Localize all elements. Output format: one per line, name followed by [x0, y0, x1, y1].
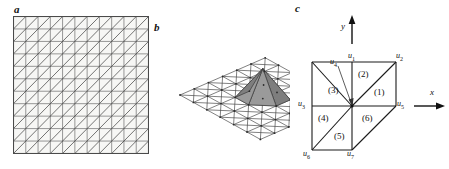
triangulated-square-grid — [13, 16, 149, 154]
perspective-mesh-with-pyramid — [150, 0, 290, 169]
triangle-label-1: (1) — [374, 88, 385, 97]
triangle-label-4: (4) — [318, 114, 329, 123]
center-node-dot — [350, 104, 353, 107]
x-axis-label: x — [430, 88, 434, 97]
y-axis-label: y — [341, 22, 345, 31]
triangle-label-3: (3) — [328, 86, 339, 95]
node-label-u1: u1 — [348, 52, 355, 62]
triangle-label-5: (5) — [334, 132, 345, 141]
y-axis-arrow — [349, 15, 356, 44]
panel-a: a — [0, 0, 160, 169]
support-patch-diagram — [290, 0, 449, 169]
node-label-u4: u4 — [330, 58, 337, 68]
node-label-u6: u6 — [303, 150, 310, 160]
node-label-u5: u5 — [397, 100, 404, 110]
figure-root: a b c — [0, 0, 449, 169]
x-axis-arrow — [414, 103, 445, 110]
panel-b: b — [150, 0, 290, 169]
triangle-label-6: (6) — [362, 114, 373, 123]
node-label-u3: u3 — [298, 100, 305, 110]
node-label-u7: u7 — [347, 150, 354, 160]
u4-leader-line — [338, 66, 354, 107]
panel-c: c y x u1 u2 u3 — [290, 0, 449, 169]
node-label-u2: u2 — [396, 52, 403, 62]
panel-a-letter: a — [14, 4, 20, 15]
triangle-label-2: (2) — [358, 70, 369, 79]
